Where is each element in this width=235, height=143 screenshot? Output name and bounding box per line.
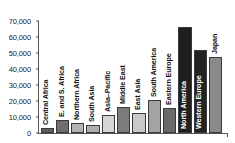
y-axis-tick-mark [36, 53, 39, 54]
bar [86, 125, 99, 133]
y-axis-tick-label: 10,000 [9, 113, 31, 122]
y-axis-tick-label: 20,000 [9, 97, 31, 106]
plot-area: Central AfricaE. and S. AfricaNorthern A… [39, 0, 228, 133]
y-axis-tick-mark [36, 69, 39, 70]
y-axis-tick-mark [36, 85, 39, 86]
bar [163, 108, 176, 133]
bar-category-label: Eastern Europe [164, 53, 173, 105]
bar-category-label: Japan [210, 34, 219, 54]
y-axis-tick-mark [36, 101, 39, 102]
bar [132, 113, 145, 133]
bar [194, 50, 207, 133]
bar [209, 57, 222, 133]
y-axis-tick-label: 30,000 [9, 81, 31, 90]
y-axis-tick-mark [36, 133, 39, 134]
y-axis-tick-label: 50,000 [9, 49, 31, 58]
y-axis-tick-label: 60,000 [9, 33, 31, 42]
bar [41, 128, 54, 133]
bar-category-label: South Asia [87, 86, 96, 122]
bar-category-label: East Asia [133, 79, 142, 110]
y-axis-tick-mark [36, 21, 39, 22]
x-axis-end-tick [227, 133, 228, 137]
bar-category-label: South America [149, 48, 158, 97]
y-axis-tick-mark [36, 37, 39, 38]
bar [71, 123, 84, 133]
bar-chart: 010,00020,00030,00040,00050,00060,00070,… [0, 0, 235, 143]
bar-category-label: Middle East [118, 65, 127, 104]
y-axis: 010,00020,00030,00040,00050,00060,00070,… [0, 0, 36, 143]
bar [102, 115, 115, 133]
bar-category-label: E. and S. Africa [57, 66, 66, 117]
bar-category-label: Asia–Pacific [103, 71, 112, 112]
y-axis-tick-label: 0 [27, 129, 31, 138]
bar-category-label: Central Africa [41, 80, 50, 125]
bar [148, 100, 161, 133]
bar [117, 107, 130, 133]
bar [56, 120, 69, 133]
y-axis-tick-label: 40,000 [9, 65, 31, 74]
x-axis-line [38, 133, 228, 134]
y-axis-tick-mark [36, 117, 39, 118]
bar [178, 27, 191, 133]
y-axis-tick-label: 70,000 [9, 17, 31, 26]
bar-category-label: Northern Africa [72, 69, 81, 120]
